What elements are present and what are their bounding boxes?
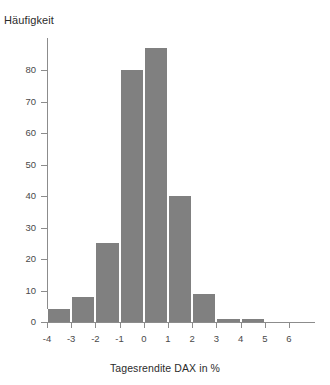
histogram-bar: [120, 70, 144, 322]
y-tick-mark: [41, 259, 47, 260]
y-tick-label: 70: [10, 96, 36, 107]
x-tick-label: 0: [134, 333, 154, 344]
x-tick-label: 2: [182, 333, 202, 344]
y-tick-mark: [41, 291, 47, 292]
histogram-bar: [168, 196, 192, 322]
x-tick-label: 1: [158, 333, 178, 344]
x-tick-label: -3: [61, 333, 81, 344]
y-tick-label: 0: [10, 316, 36, 327]
y-tick-label: 80: [10, 64, 36, 75]
y-tick-label: 20: [10, 253, 36, 264]
y-tick-mark: [41, 228, 47, 229]
y-tick-mark: [41, 102, 47, 103]
x-tick-mark: [95, 323, 96, 328]
y-tick-label: 30: [10, 222, 36, 233]
x-tick-mark: [216, 323, 217, 328]
x-tick-mark: [265, 323, 266, 328]
x-tick-mark: [289, 323, 290, 328]
histogram-bar: [95, 243, 119, 322]
histogram-bar: [216, 319, 240, 322]
y-tick-label: 40: [10, 190, 36, 201]
y-tick-label: 10: [10, 285, 36, 296]
y-tick-mark: [41, 196, 47, 197]
x-tick-label: -1: [110, 333, 130, 344]
x-tick-mark: [144, 323, 145, 328]
plot-area: [48, 38, 314, 322]
y-tick-mark: [41, 70, 47, 71]
histogram-bar: [241, 319, 265, 322]
x-tick-label: 5: [255, 333, 275, 344]
x-tick-mark: [241, 323, 242, 328]
y-axis-title: Häufigkeit: [4, 14, 54, 26]
x-tick-mark: [120, 323, 121, 328]
x-tick-mark: [168, 323, 169, 328]
x-tick-mark: [192, 323, 193, 328]
x-tick-label: -4: [37, 333, 57, 344]
x-tick-label: 4: [231, 333, 251, 344]
histogram-bar: [192, 294, 216, 322]
y-tick-label: 50: [10, 159, 36, 170]
x-axis-line: [47, 322, 315, 323]
x-tick-mark: [71, 323, 72, 328]
histogram-bar: [47, 309, 71, 322]
y-tick-mark: [41, 133, 47, 134]
x-tick-label: 6: [279, 333, 299, 344]
x-tick-mark: [47, 323, 48, 328]
histogram-chart: Häufigkeit 01020304050607080 -4-3-2-1012…: [0, 0, 330, 385]
y-tick-mark: [41, 165, 47, 166]
histogram-bar: [144, 48, 168, 322]
x-tick-label: 3: [206, 333, 226, 344]
y-tick-label: 60: [10, 127, 36, 138]
histogram-bar: [71, 297, 95, 322]
x-axis-title: Tagesrendite DAX in %: [0, 362, 330, 374]
x-tick-label: -2: [85, 333, 105, 344]
